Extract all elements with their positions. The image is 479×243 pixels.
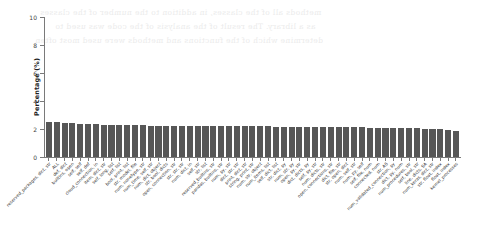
bar — [382, 128, 388, 157]
bleed-line: methods all of the classes, in addition … — [40, 8, 321, 17]
bar — [437, 129, 443, 157]
x-axis-tick-mark — [135, 158, 136, 161]
bar-slot — [194, 17, 202, 157]
bar — [46, 122, 52, 157]
bar — [406, 128, 412, 157]
bar-slot — [241, 17, 249, 157]
x-axis-tick-mark — [205, 158, 206, 161]
bar-slot — [327, 17, 335, 157]
y-axis-tick-label: 8 — [33, 43, 37, 49]
bar-slot — [147, 17, 155, 157]
bar-slot — [256, 17, 264, 157]
x-axis-label-slot: kernel_processes — [452, 162, 460, 243]
bar-slot — [288, 17, 296, 157]
bar — [77, 124, 83, 157]
bar — [54, 122, 60, 157]
bar — [85, 124, 91, 157]
y-axis-tick-label: 6 — [33, 71, 37, 77]
bar-slot — [68, 17, 76, 157]
bar — [218, 126, 224, 157]
bar-slot — [405, 17, 413, 157]
x-axis-tick-labels: reserved_packages, dict, strALLdef, dict… — [45, 162, 460, 243]
bar — [265, 126, 271, 157]
x-axis-tick-mark — [213, 158, 214, 161]
bar-slot — [202, 17, 210, 157]
x-axis-tick-mark — [228, 158, 229, 161]
y-axis-tick-label: 4 — [33, 99, 37, 105]
bar-slot — [225, 17, 233, 157]
bar — [195, 126, 201, 157]
bar-slot — [264, 17, 272, 157]
bar-slot — [389, 17, 397, 157]
bar-slot — [139, 17, 147, 157]
bar-slot — [115, 17, 123, 157]
x-axis-tick-mark — [72, 158, 73, 161]
bar-chart-figure: methods all of the classes, in addition … — [0, 0, 479, 243]
x-axis-tick-mark — [424, 158, 425, 161]
x-axis-tick-mark — [448, 158, 449, 161]
bar-slot — [319, 17, 327, 157]
bar — [281, 127, 287, 157]
bar-slot — [397, 17, 405, 157]
x-axis-tick-mark — [299, 158, 300, 161]
bar — [249, 126, 255, 157]
bar-slot — [76, 17, 84, 157]
bar — [296, 127, 302, 157]
x-axis-tick-mark — [260, 158, 261, 161]
bar — [257, 126, 263, 157]
bar-slot — [358, 17, 366, 157]
bar-slot — [170, 17, 178, 157]
bar — [101, 125, 107, 157]
bar-slot — [429, 17, 437, 157]
bar-slot — [53, 17, 61, 157]
bar — [328, 127, 334, 157]
bar — [140, 125, 146, 157]
x-axis-tick-mark — [401, 158, 402, 161]
bar — [351, 127, 357, 157]
bar-slot — [155, 17, 163, 157]
bar — [116, 125, 122, 157]
y-axis-tick: 0 — [40, 157, 44, 158]
bar — [320, 127, 326, 157]
bar-slot — [61, 17, 69, 157]
bar-slot — [444, 17, 452, 157]
x-axis-tick-mark — [127, 158, 128, 161]
bar — [304, 127, 310, 157]
bar — [343, 127, 349, 157]
x-axis-tick-mark — [362, 158, 363, 161]
y-axis-tick: 10 — [40, 17, 44, 18]
x-axis-tick-mark — [80, 158, 81, 161]
bar — [226, 126, 232, 157]
bar-slot — [217, 17, 225, 157]
y-axis-tick: 8 — [40, 45, 44, 46]
bar — [273, 127, 279, 157]
bar-slot — [303, 17, 311, 157]
bar-slot — [233, 17, 241, 157]
x-axis-tick-mark — [409, 158, 410, 161]
y-axis-label: Percentage (%) — [33, 58, 41, 116]
bar — [62, 123, 68, 157]
x-axis-tick-label: reserved_packages, dict, str — [6, 162, 52, 208]
y-axis-tick: 4 — [40, 101, 44, 102]
bar — [163, 126, 169, 157]
y-axis-tick: 6 — [40, 73, 44, 74]
bar-slot — [280, 17, 288, 157]
x-axis-tick-mark — [315, 158, 316, 161]
bar-slot — [436, 17, 444, 157]
bar-slot — [186, 17, 194, 157]
bar — [429, 129, 435, 157]
bar-slot — [45, 17, 53, 157]
bar — [108, 125, 114, 157]
bar — [69, 123, 75, 157]
bar — [242, 126, 248, 157]
bar-slot — [421, 17, 429, 157]
x-axis-tick-mark — [307, 158, 308, 161]
x-axis-tick-mark — [275, 158, 276, 161]
bar — [359, 127, 365, 157]
bar — [148, 126, 154, 158]
x-axis-tick-mark — [346, 158, 347, 161]
bar — [289, 127, 295, 157]
y-axis-tick-label: 10 — [29, 15, 37, 21]
bar — [414, 128, 420, 157]
bar — [187, 126, 193, 157]
